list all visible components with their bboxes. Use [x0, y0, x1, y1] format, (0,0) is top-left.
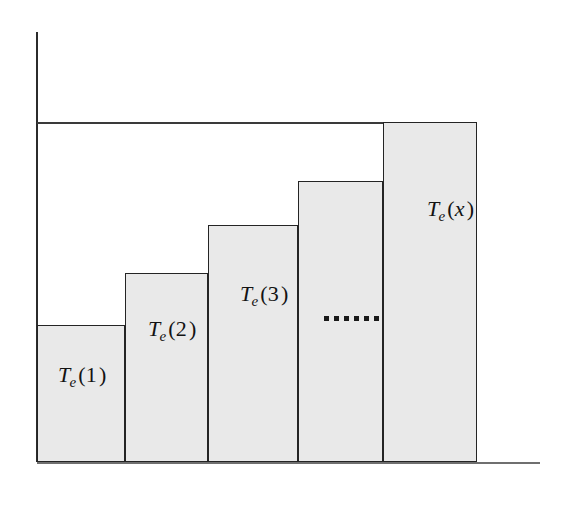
- bar-label-1: Te(1): [58, 364, 107, 390]
- bar-label-5-subscript: e: [438, 208, 445, 224]
- bar-label-2-open-paren: (: [168, 316, 176, 341]
- bar-label-5-close-paren: ): [467, 196, 475, 221]
- bar-label-3-subscript: e: [251, 293, 258, 309]
- bar-5: [383, 122, 477, 462]
- bar-4: [298, 181, 383, 462]
- step-function-bar-figure: Te(1) Te(2) Te(3) Te(x): [0, 0, 577, 510]
- bar-label-3-open-paren: (: [260, 281, 268, 306]
- bar-label-2-subscript: e: [159, 328, 166, 344]
- bar-3: [208, 225, 298, 462]
- ellipsis-dots: [324, 316, 379, 321]
- bar-label-3: Te(3): [240, 283, 289, 309]
- bar-label-1-open-paren: (: [78, 362, 86, 387]
- bar-label-3-argument: 3: [268, 281, 279, 306]
- ellipsis-dot: [334, 316, 339, 321]
- bar-2: [125, 273, 208, 462]
- ellipsis-dot: [374, 316, 379, 321]
- x-axis-line: [37, 462, 540, 464]
- bar-label-3-close-paren: ): [281, 281, 289, 306]
- bar-label-5-argument: x: [455, 196, 465, 221]
- bar-label-1-close-paren: ): [99, 362, 107, 387]
- ellipsis-dot: [354, 316, 359, 321]
- ellipsis-dot: [364, 316, 369, 321]
- bar-label-2-argument: 2: [176, 316, 187, 341]
- bar-label-1-subscript: e: [69, 374, 76, 390]
- bar-label-1-argument: 1: [86, 362, 97, 387]
- bar-1: [37, 325, 125, 462]
- bar-label-2-close-paren: ): [189, 316, 197, 341]
- bar-label-5: Te(x): [427, 198, 474, 224]
- ellipsis-dot: [324, 316, 329, 321]
- bar-label-5-open-paren: (: [447, 196, 455, 221]
- ellipsis-dot: [344, 316, 349, 321]
- bar-label-2: Te(2): [148, 318, 197, 344]
